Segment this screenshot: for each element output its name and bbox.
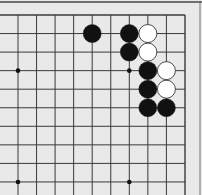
black-stone <box>83 25 101 43</box>
go-board[interactable] <box>0 0 202 195</box>
white-stone <box>139 25 157 43</box>
black-stone <box>139 80 157 98</box>
star-point <box>16 68 21 73</box>
black-stone <box>139 62 157 80</box>
white-stone <box>157 80 175 98</box>
star-point <box>127 68 132 73</box>
board-background <box>0 0 202 195</box>
star-point <box>16 180 21 185</box>
black-stone <box>120 43 138 61</box>
black-stone <box>139 99 157 117</box>
black-stone <box>120 25 138 43</box>
white-stone <box>139 43 157 61</box>
white-stone <box>157 62 175 80</box>
star-point <box>127 180 132 185</box>
black-stone <box>157 99 175 117</box>
